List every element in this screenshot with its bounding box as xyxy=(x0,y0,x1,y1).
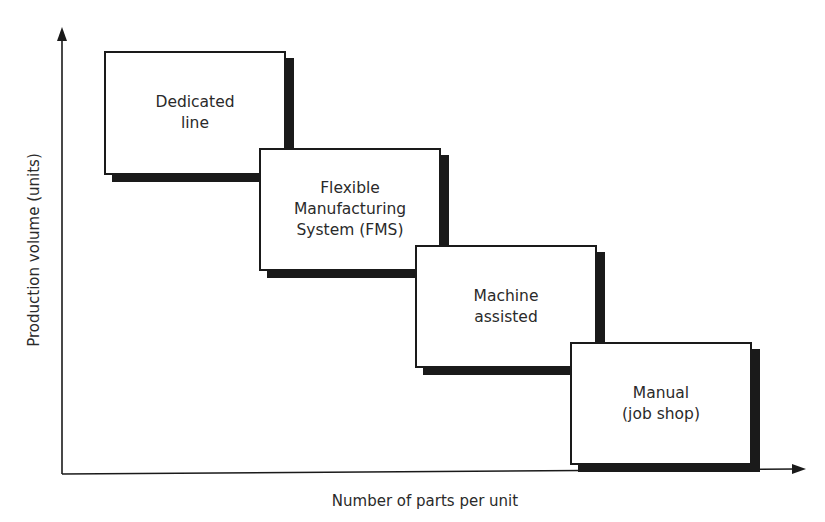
y-axis-arrow-icon xyxy=(57,27,67,41)
box-label: Dedicated line xyxy=(155,92,234,134)
box-manual-job-shop: Manual (job shop) xyxy=(570,342,752,465)
y-axis-label: Production volume (units) xyxy=(25,153,43,347)
x-axis-arrow-icon xyxy=(792,464,806,474)
box-label: Machine assisted xyxy=(474,286,539,328)
x-axis-line xyxy=(62,469,796,474)
box-fms: Flexible Manufacturing System (FMS) xyxy=(259,148,441,271)
box-label: Manual (job shop) xyxy=(622,383,700,425)
x-axis-label: Number of parts per unit xyxy=(332,492,518,510)
box-label: Flexible Manufacturing System (FMS) xyxy=(294,178,406,241)
